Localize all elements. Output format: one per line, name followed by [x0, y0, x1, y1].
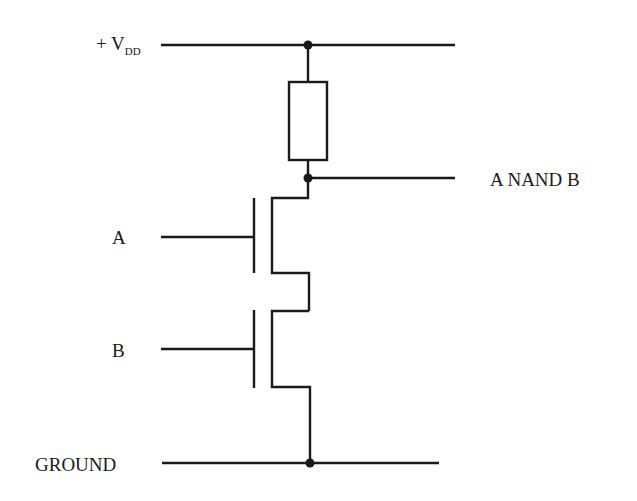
nand-gate-schematic [0, 0, 637, 501]
vdd-label-main: + V [96, 33, 125, 54]
output-label: A NAND B [490, 170, 580, 189]
vdd-label: + VDD [96, 34, 141, 53]
transistor-b-channel [272, 311, 310, 463]
vdd-label-subscript: DD [125, 45, 141, 57]
load-resistor [289, 82, 327, 160]
input-b-label: B [112, 341, 125, 360]
ground-label: GROUND [35, 455, 116, 474]
ground-junction-dot [306, 459, 315, 468]
input-a-label: A [112, 228, 126, 247]
transistor-a-channel [272, 178, 309, 311]
